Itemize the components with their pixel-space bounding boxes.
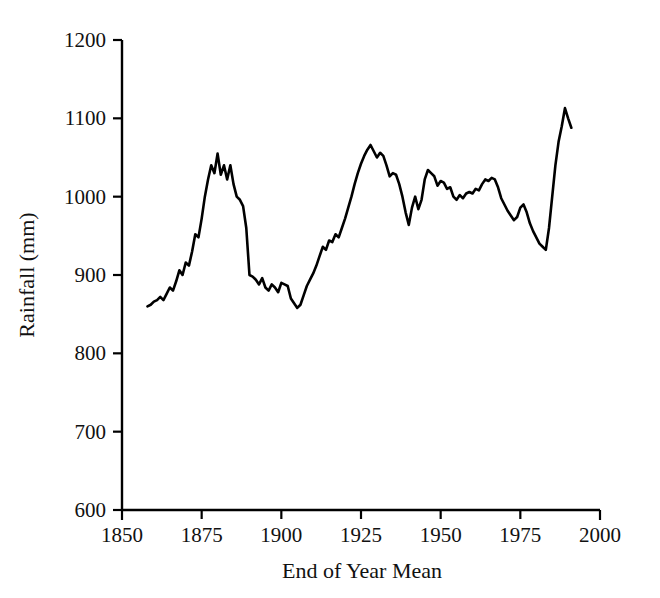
- y-axis-tick-label: 700: [75, 420, 107, 444]
- y-axis-tick-label: 1000: [64, 185, 106, 209]
- x-axis-tick-label: 1875: [181, 523, 223, 547]
- x-axis-tick-label: 2000: [579, 523, 621, 547]
- rainfall-line-chart: 600700800900100011001200 185018751900192…: [0, 0, 660, 598]
- x-axis-title: End of Year Mean: [282, 558, 442, 583]
- y-axis-tick-label: 800: [75, 341, 107, 365]
- y-axis-tick-label: 900: [75, 263, 107, 287]
- x-axis-tick-label: 1900: [260, 523, 302, 547]
- y-axis-tick-label: 600: [75, 498, 107, 522]
- y-axis-tick-label: 1100: [65, 106, 106, 130]
- chart-figure: 600700800900100011001200 185018751900192…: [0, 0, 660, 598]
- x-axis-tick-label: 1850: [101, 523, 143, 547]
- x-axis-tick-label: 1950: [420, 523, 462, 547]
- y-axis-tick-label: 1200: [64, 28, 106, 52]
- y-axis-title: Rainfall (mm): [14, 212, 39, 337]
- x-axis-tick-label: 1925: [340, 523, 382, 547]
- x-axis-tick-label: 1975: [499, 523, 541, 547]
